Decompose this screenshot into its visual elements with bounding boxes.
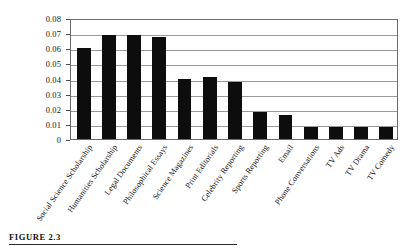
y-tick-mark <box>66 140 70 141</box>
bar[interactable] <box>102 35 116 139</box>
y-tick-label: 0.03 <box>46 90 61 99</box>
x-tick-label: Email <box>277 143 296 165</box>
figure-container: 00.010.020.030.040.050.060.070.08 Social… <box>0 0 411 250</box>
y-tick-label: 0.04 <box>46 75 61 84</box>
y-axis: 00.010.020.030.040.050.060.070.08 <box>0 0 70 160</box>
y-tick-label: 0.05 <box>46 60 61 69</box>
bar[interactable] <box>304 127 318 139</box>
bar[interactable] <box>279 115 293 140</box>
bar[interactable] <box>379 127 393 139</box>
bar[interactable] <box>178 79 192 139</box>
figure-caption-label: FIGURE 2.3 <box>9 232 249 244</box>
x-tick-label: TV Ads <box>324 143 346 170</box>
caption-rule <box>9 244 237 245</box>
bar[interactable] <box>127 35 141 139</box>
bar[interactable] <box>354 127 368 139</box>
bar[interactable] <box>152 37 166 139</box>
y-tick-label: 0.07 <box>46 30 61 39</box>
bar[interactable] <box>228 82 242 139</box>
y-tick-label: 0.06 <box>46 45 61 54</box>
figure-caption: FIGURE 2.3 <box>9 232 249 245</box>
y-tick-label: 0.01 <box>46 121 61 130</box>
bar[interactable] <box>203 77 217 139</box>
y-tick-label: 0.08 <box>46 15 61 24</box>
bar-series <box>71 20 397 139</box>
y-tick-label: 0 <box>57 136 61 145</box>
bar[interactable] <box>77 48 91 139</box>
plot-area <box>70 19 398 140</box>
bar[interactable] <box>329 127 343 139</box>
y-tick-label: 0.02 <box>46 106 61 115</box>
bar[interactable] <box>253 112 267 139</box>
